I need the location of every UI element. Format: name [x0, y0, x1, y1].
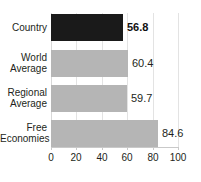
value-label-free-economies: 84.6 — [162, 128, 183, 139]
x-tick-label-0: 0 — [38, 152, 64, 163]
plot-area — [51, 13, 178, 147]
category-label-country: Country — [0, 22, 47, 33]
x-tick-label-100: 100 — [165, 152, 191, 163]
chart-title-clipped — [0, 0, 201, 3]
x-tick-label-80: 80 — [140, 152, 166, 163]
category-label-country-line1: Country — [0, 22, 47, 33]
x-tick-label-40: 40 — [89, 152, 115, 163]
x-tick-mark-100 — [178, 147, 179, 150]
x-tick-mark-20 — [76, 147, 77, 150]
x-tick-mark-0 — [51, 147, 52, 150]
bar-free-economies[interactable] — [51, 120, 158, 147]
category-label-regional-average: Regional Average — [0, 87, 47, 109]
category-label-free-economies-line2: Economies — [0, 133, 47, 144]
category-label-regional-average-line2: Average — [0, 98, 47, 109]
value-label-regional-average: 59.7 — [131, 93, 152, 104]
x-axis-line — [51, 147, 179, 148]
bar-regional-average[interactable] — [51, 85, 127, 112]
bar-chart: Country World Average Regional Average F… — [0, 0, 201, 182]
x-tick-mark-60 — [127, 147, 128, 150]
category-label-free-economies-line1: Free — [0, 122, 47, 133]
value-label-world-average: 60.4 — [132, 58, 153, 69]
bar-world-average[interactable] — [51, 50, 128, 77]
value-label-country: 56.8 — [127, 22, 148, 33]
x-tick-label-20: 20 — [63, 152, 89, 163]
bar-country[interactable] — [51, 14, 123, 41]
category-label-world-average-line2: Average — [0, 63, 47, 74]
category-label-regional-average-line1: Regional — [0, 87, 47, 98]
x-tick-mark-40 — [102, 147, 103, 150]
category-label-world-average-line1: World — [0, 52, 47, 63]
x-tick-mark-80 — [153, 147, 154, 150]
category-label-world-average: World Average — [0, 52, 47, 74]
category-label-free-economies: Free Economies — [0, 122, 47, 144]
x-tick-label-60: 60 — [114, 152, 140, 163]
